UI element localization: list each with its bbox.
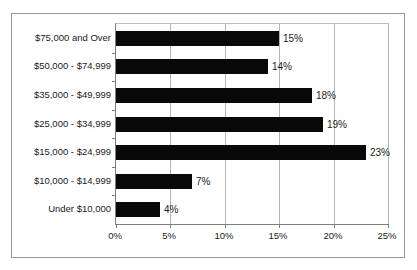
x-tick-mark-25% [388, 224, 389, 228]
category-label: $35,000 - $49,999 [12, 87, 111, 102]
bar-value-label: 23% [370, 145, 390, 160]
x-tick-label-25%: 25% [367, 230, 407, 241]
bar[interactable] [116, 174, 192, 189]
category-label: Under $10,000 [12, 201, 111, 216]
category-tick-mark [112, 110, 116, 111]
bar-value-label: 14% [272, 59, 292, 74]
category-label: $50,000 - $74,999 [12, 58, 111, 73]
category-tick-mark [112, 81, 116, 82]
category-tick-mark [112, 167, 116, 168]
bar[interactable] [116, 59, 268, 74]
x-tick-label-0%: 0% [95, 230, 135, 241]
x-tick-label-5%: 5% [149, 230, 189, 241]
bar[interactable] [116, 31, 279, 46]
category-label: $10,000 - $14,999 [12, 173, 111, 188]
x-tick-mark-15% [279, 224, 280, 228]
bar[interactable] [116, 145, 366, 160]
bar[interactable] [116, 202, 160, 217]
category-tick-mark [112, 53, 116, 54]
gridline-25% [388, 24, 389, 224]
chart-frame: 4%7%23%19%18%14%15% Under $10,000$10,000… [11, 13, 405, 258]
category-label: $25,000 - $34,999 [12, 116, 111, 131]
category-tick-mark [112, 138, 116, 139]
bar-value-label: 15% [283, 31, 303, 46]
category-label: $15,000 - $24,999 [12, 144, 111, 159]
x-tick-mark-20% [334, 224, 335, 228]
bar[interactable] [116, 117, 323, 132]
x-tick-label-10%: 10% [204, 230, 244, 241]
x-tick-label-20%: 20% [313, 230, 353, 241]
bar-value-label: 7% [196, 174, 210, 189]
bar[interactable] [116, 88, 312, 103]
bar-value-label: 19% [327, 117, 347, 132]
x-tick-mark-5% [170, 224, 171, 228]
x-tick-label-15%: 15% [258, 230, 298, 241]
x-tick-mark-10% [225, 224, 226, 228]
bar-value-label: 18% [316, 88, 336, 103]
category-label: $75,000 and Over [12, 30, 111, 45]
bar-value-label: 4% [164, 202, 178, 217]
x-tick-mark-0% [116, 224, 117, 228]
plot-area: 4%7%23%19%18%14%15% [115, 23, 389, 225]
category-tick-mark [112, 195, 116, 196]
